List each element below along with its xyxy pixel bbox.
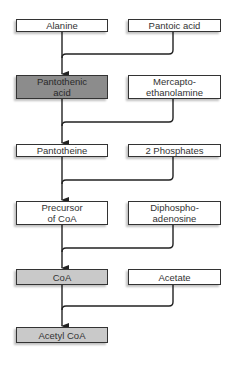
node-2-phosphates: 2 Phosphates xyxy=(128,144,221,157)
node-label-line2: of CoA xyxy=(47,213,76,224)
connector-lines xyxy=(0,0,239,366)
node-label: Pantotheine xyxy=(37,145,88,156)
connector-phosphates xyxy=(62,157,173,184)
node-mercaptoethanolamine: Mercapto- ethanolamine xyxy=(128,75,221,99)
node-coa: CoA xyxy=(16,269,108,285)
node-pantothenic-acid: Pantothenic acid xyxy=(16,75,108,99)
node-acetyl-coa: Acetyl CoA xyxy=(16,327,108,343)
node-diphosphoadenosine: Diphospho- adenosine xyxy=(128,201,221,225)
node-label: Acetate xyxy=(158,272,190,283)
node-label: CoA xyxy=(53,272,71,283)
node-label-line1: Mercapto- xyxy=(153,76,196,87)
node-label: Pantoic acid xyxy=(149,20,201,31)
node-alanine: Alanine xyxy=(16,19,108,32)
node-label: 2 Phosphates xyxy=(145,145,203,156)
node-label-line1: Pantothenic xyxy=(37,76,87,87)
node-label-line2: acid xyxy=(53,87,70,98)
node-label-line2: ethanolamine xyxy=(146,87,203,98)
connector-acetate xyxy=(62,285,173,310)
node-pantotheine: Pantotheine xyxy=(16,144,108,157)
connector-pantoic xyxy=(62,32,173,58)
node-label: Alanine xyxy=(46,20,78,31)
node-precursor-of-coa: Precursor of CoA xyxy=(16,201,108,225)
node-pantoic-acid: Pantoic acid xyxy=(128,19,221,32)
node-label-line2: adenosine xyxy=(153,213,197,224)
node-label-line1: Precursor xyxy=(41,202,82,213)
node-label: Acetyl CoA xyxy=(39,330,86,341)
node-acetate: Acetate xyxy=(128,269,221,285)
connector-mercapto xyxy=(62,99,173,126)
connector-diphospho xyxy=(62,225,173,252)
node-label-line1: Diphospho- xyxy=(150,202,199,213)
